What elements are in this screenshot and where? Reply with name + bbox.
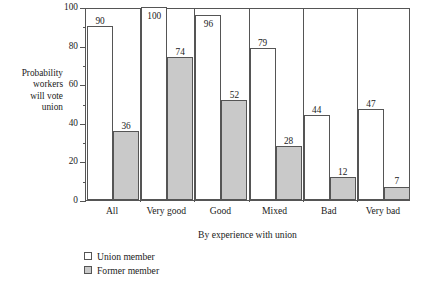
x-axis-label-all: All — [85, 205, 139, 216]
x-axis-label-good: Good — [193, 205, 247, 216]
y-axis-tick-label-40: 40 — [50, 118, 78, 128]
y-axis-tick-0 — [80, 201, 86, 202]
bar-good-former-member — [221, 100, 247, 200]
y-axis-tick-label-20: 20 — [50, 156, 78, 166]
y-axis-tick-label-0: 0 — [50, 195, 78, 205]
y-axis-tick-label-60: 60 — [50, 79, 78, 89]
bar-value-label-mixed-union-member: 79 — [250, 38, 276, 48]
legend-item-former-member: Former member — [84, 263, 159, 277]
bar-very-bad-union-member — [358, 109, 384, 200]
bar-value-label-very-bad-former-member: 7 — [384, 176, 410, 186]
bar-value-label-good-former-member: 52 — [221, 90, 247, 100]
x-axis-label-very-bad: Very bad — [356, 205, 410, 216]
bar-very-bad-former-member — [384, 187, 410, 201]
chart-legend: Union member Former member — [84, 249, 159, 277]
bar-good-union-member — [195, 15, 221, 200]
legend-swatch-union-member — [84, 252, 92, 260]
x-axis-tick-labels: AllVery goodGoodMixedBadVery bad — [85, 205, 410, 221]
x-axis-label-bad: Bad — [302, 205, 356, 216]
bar-value-label-very-good-former-member: 74 — [167, 47, 193, 57]
bar-very-good-former-member — [167, 57, 193, 200]
bar-all-former-member — [113, 131, 139, 200]
y-axis-tick-label-100: 100 — [50, 2, 78, 12]
bar-value-label-bad-former-member: 12 — [330, 167, 356, 177]
bar-value-label-all-union-member: 90 — [87, 16, 113, 26]
bar-value-label-all-former-member: 36 — [113, 121, 139, 131]
bar-all-union-member — [87, 26, 113, 200]
bar-value-label-mixed-former-member: 28 — [276, 136, 302, 146]
legend-label-former-member: Former member — [97, 265, 159, 276]
bar-value-label-bad-union-member: 44 — [304, 105, 330, 115]
y-axis-tick-labels: 020406080100 — [48, 8, 78, 202]
bar-value-label-very-good-union-member: 100 — [141, 11, 167, 21]
bar-very-good-union-member — [141, 7, 167, 200]
legend-item-union-member: Union member — [84, 249, 159, 263]
x-axis-label-very-good: Very good — [139, 205, 193, 216]
bar-mixed-union-member — [250, 48, 276, 200]
x-axis-label-mixed: Mixed — [248, 205, 302, 216]
legend-label-union-member: Union member — [97, 251, 155, 262]
x-axis-title: By experience with union — [85, 229, 410, 240]
bar-value-label-good-union-member: 96 — [195, 19, 221, 29]
plot-area: 903610074965279284412477 — [85, 8, 410, 201]
bar-mixed-former-member — [276, 146, 302, 200]
bar-bad-union-member — [304, 115, 330, 200]
bar-value-label-very-bad-union-member: 47 — [358, 99, 384, 109]
legend-swatch-former-member — [84, 266, 92, 274]
bar-chart-figure: Probability workers will vote union 0204… — [0, 0, 421, 283]
bar-bad-former-member — [330, 177, 356, 200]
y-axis-tick-label-80: 80 — [50, 41, 78, 51]
